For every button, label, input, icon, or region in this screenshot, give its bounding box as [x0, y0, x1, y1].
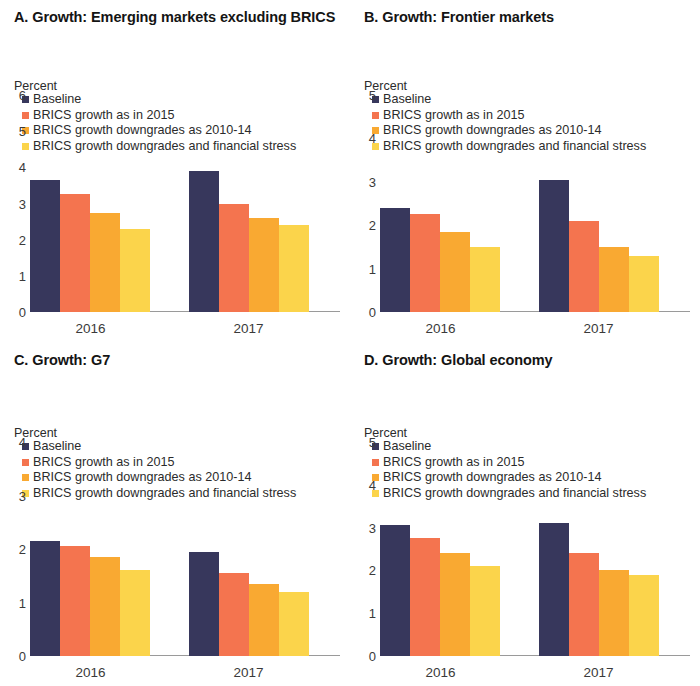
- x-axis-tick-label: 2016: [75, 665, 105, 680]
- y-axis-tick-label: 2: [350, 218, 376, 233]
- bar: [629, 575, 659, 656]
- y-axis-tick-label: 4: [0, 160, 26, 175]
- bar: [380, 525, 410, 656]
- bar: [189, 552, 219, 656]
- panel-a-title: A. Growth: Emerging markets excluding BR…: [14, 8, 344, 28]
- bar-group-2017: [189, 442, 309, 656]
- x-axis-tick-label: 2016: [425, 665, 455, 680]
- bar: [249, 584, 279, 656]
- y-axis-tick-label: 1: [0, 595, 26, 610]
- bar: [219, 573, 249, 656]
- bar: [470, 566, 500, 656]
- y-axis-tick-label: 3: [350, 520, 376, 535]
- y-axis-tick-label: 1: [350, 261, 376, 276]
- y-axis-tick-label: 0: [350, 305, 376, 320]
- y-axis-tick-label: 6: [0, 88, 26, 103]
- bar: [219, 204, 249, 313]
- y-axis-tick-label: 5: [0, 124, 26, 139]
- panel-c-plot: 4321020162017: [30, 442, 340, 656]
- bar: [599, 570, 629, 656]
- x-axis-tick-label: 2017: [234, 665, 264, 680]
- y-axis-tick-label: 2: [0, 232, 26, 247]
- bar: [410, 538, 440, 656]
- bar-group-2017: [539, 95, 659, 312]
- bar: [90, 557, 120, 656]
- legend-swatch-icon-brics_2015: [372, 112, 379, 119]
- bar: [440, 553, 470, 656]
- bar: [30, 541, 60, 656]
- x-axis-tick-label: 2017: [584, 321, 614, 336]
- bar: [30, 180, 60, 312]
- panel-c: C. Growth: G7 Percent BaselineBRICS grow…: [0, 343, 350, 686]
- bar: [279, 592, 309, 656]
- legend-swatch-icon-brics_stress: [22, 143, 29, 150]
- y-axis-tick-label: 1: [0, 268, 26, 283]
- bar: [569, 221, 599, 312]
- bar: [629, 256, 659, 312]
- legend-swatch-icon-brics_downgrade: [22, 474, 29, 481]
- panel-d-plot: 54321020162017: [380, 442, 690, 656]
- y-axis-tick-label: 2: [350, 563, 376, 578]
- y-axis-tick-label: 5: [350, 88, 376, 103]
- x-axis-tick-label: 2017: [234, 321, 264, 336]
- bar: [380, 208, 410, 312]
- panel-b-title: B. Growth: Frontier markets: [364, 8, 694, 28]
- y-axis-tick-label: 3: [0, 488, 26, 503]
- bar-group-2016: [380, 95, 500, 312]
- y-axis-tick-label: 0: [0, 305, 26, 320]
- legend-swatch-icon-brics_2015: [22, 112, 29, 119]
- panel-b-plot: 54321020162017: [380, 95, 690, 312]
- bar: [279, 225, 309, 312]
- bar: [440, 232, 470, 312]
- y-axis-tick-label: 5: [350, 435, 376, 450]
- y-axis-tick-label: 0: [0, 649, 26, 664]
- bar-group-2016: [380, 442, 500, 656]
- y-axis-tick-label: 2: [0, 542, 26, 557]
- bar: [410, 214, 440, 312]
- y-axis-tick-label: 1: [350, 606, 376, 621]
- legend-swatch-icon-brics_2015: [372, 459, 379, 466]
- y-axis-tick-label: 3: [0, 196, 26, 211]
- y-axis-tick-label: 4: [0, 435, 26, 450]
- x-axis-tick-label: 2017: [584, 665, 614, 680]
- bar: [90, 213, 120, 312]
- bar: [249, 218, 279, 312]
- bar: [120, 570, 150, 656]
- bar-group-2017: [539, 442, 659, 656]
- panel-a-plot: 654321020162017: [30, 95, 340, 312]
- legend-swatch-icon-brics_2015: [22, 459, 29, 466]
- bar: [539, 180, 569, 312]
- y-axis-tick-label: 4: [350, 131, 376, 146]
- y-axis-tick-label: 3: [350, 174, 376, 189]
- panel-c-title: C. Growth: G7: [14, 351, 344, 371]
- x-axis-tick-label: 2016: [425, 321, 455, 336]
- panel-a: A. Growth: Emerging markets excluding BR…: [0, 0, 350, 343]
- bar-group-2017: [189, 95, 309, 312]
- y-axis-tick-label: 0: [350, 649, 376, 664]
- panel-b: B. Growth: Frontier markets Percent Base…: [350, 0, 700, 343]
- bar: [120, 229, 150, 312]
- bar-group-2016: [30, 95, 150, 312]
- bar: [569, 553, 599, 656]
- bar: [539, 523, 569, 656]
- bar: [189, 171, 219, 312]
- bar: [599, 247, 629, 312]
- bar-group-2016: [30, 442, 150, 656]
- bar: [60, 194, 90, 312]
- bar: [60, 546, 90, 656]
- bar: [470, 247, 500, 312]
- panel-d: D. Growth: Global economy Percent Baseli…: [350, 343, 700, 686]
- chart-panel-grid: A. Growth: Emerging markets excluding BR…: [0, 0, 700, 686]
- panel-d-title: D. Growth: Global economy: [364, 351, 694, 371]
- y-axis-tick-label: 4: [350, 477, 376, 492]
- x-axis-tick-label: 2016: [75, 321, 105, 336]
